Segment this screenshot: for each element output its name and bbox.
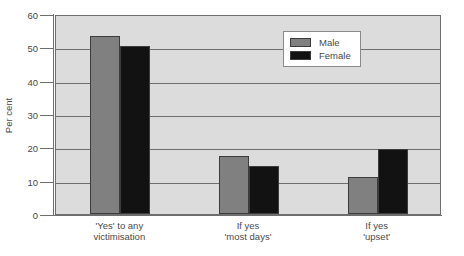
y-axis-tick-mark: [40, 182, 53, 183]
plot-area: [55, 15, 441, 215]
x-axis-label-line: 'most days': [178, 231, 318, 242]
y-axis-ticks: 0102030405060: [0, 0, 38, 256]
x-axis-label-0: 'Yes' to anyvictimisation: [49, 220, 189, 242]
legend-swatch-male-icon: [290, 38, 311, 47]
y-axis-tick-label: 0: [4, 210, 38, 221]
bar-female-2: [378, 149, 408, 214]
y-axis-tick-mark: [40, 148, 53, 149]
x-axis-label-line: If yes: [178, 220, 318, 231]
y-axis-tick-mark: [40, 115, 53, 116]
bar-female-1: [249, 166, 279, 214]
x-axis-label-2: If yes'upset': [307, 220, 447, 242]
y-axis-tick-label: 40: [4, 76, 38, 87]
legend: Male Female: [283, 31, 361, 67]
legend-label-female: Female: [319, 50, 351, 61]
bar-male-1: [219, 156, 249, 214]
legend-label-male: Male: [319, 37, 340, 48]
y-axis-tick-label: 30: [4, 110, 38, 121]
bar-male-0: [90, 36, 120, 214]
y-axis-tick-mark: [40, 15, 53, 16]
x-axis-line: [40, 215, 442, 216]
bar-female-0: [120, 46, 150, 214]
legend-item-female: Female: [290, 49, 351, 62]
bar-chart: Per cent 0102030405060 'Yes' to anyvicti…: [0, 0, 464, 256]
y-axis-line: [53, 14, 54, 216]
y-axis-tick-label: 10: [4, 176, 38, 187]
legend-item-male: Male: [290, 36, 351, 49]
x-axis-label-line: If yes: [307, 220, 447, 231]
x-axis-label-line: victimisation: [49, 231, 189, 242]
x-axis-label-line: 'upset': [307, 231, 447, 242]
legend-swatch-female-icon: [290, 51, 311, 60]
y-axis-tick-label: 50: [4, 43, 38, 54]
bar-male-2: [348, 177, 378, 214]
x-axis-label-1: If yes'most days': [178, 220, 318, 242]
y-axis-tick-mark: [40, 48, 53, 49]
x-axis-label-line: 'Yes' to any: [49, 220, 189, 231]
y-axis-tick-label: 60: [4, 10, 38, 21]
y-axis-tick-mark: [40, 82, 53, 83]
y-axis-tick-mark: [40, 215, 53, 216]
y-axis-tick-label: 20: [4, 143, 38, 154]
